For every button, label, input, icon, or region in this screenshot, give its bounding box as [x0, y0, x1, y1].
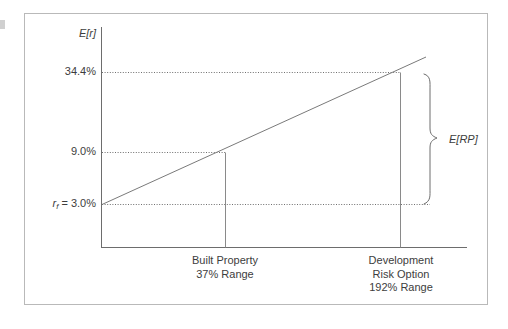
category-label-development-risk-option: Development Risk Option 192% Range [337, 254, 465, 295]
y-tick-label-high: 34.4% [36, 65, 96, 79]
category-2-line-2: Risk Option [337, 268, 465, 282]
category-2-line-1: Development [337, 254, 465, 268]
category-label-built-property: Built Property 37% Range [160, 254, 290, 281]
y-tick-label-mid: 9.0% [36, 145, 96, 159]
risk-free-value: = 3.0% [58, 197, 96, 209]
figure-root: E[r] 34.4% 9.0% rf = 3.0% E[RP] Built Pr… [0, 0, 508, 329]
category-2-line-3: 192% Range [337, 281, 465, 295]
y-tick-label-risk-free: rf = 3.0% [20, 197, 96, 212]
category-1-line-1: Built Property [160, 254, 290, 268]
risk-premium-label: E[RP] [449, 133, 478, 147]
risk-premium-brace [424, 74, 437, 204]
category-1-line-2: 37% Range [160, 268, 290, 282]
y-axis-label: E[r] [48, 27, 96, 41]
security-market-line [102, 57, 426, 205]
